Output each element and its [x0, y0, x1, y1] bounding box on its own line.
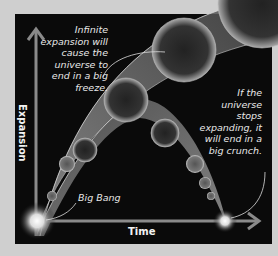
x-axis-label: Time — [128, 226, 155, 237]
big-bang-annotation: Big Bang — [78, 192, 138, 204]
big-bang-glow-icon — [18, 202, 56, 240]
y-axis-label: Expansion — [17, 104, 28, 162]
big-crunch-annotation: If the universe stops expanding, it will… — [196, 87, 262, 156]
big-freeze-annotation: Infinite expansion will cause the univer… — [38, 24, 108, 93]
big-crunch-glow-icon — [213, 209, 237, 233]
